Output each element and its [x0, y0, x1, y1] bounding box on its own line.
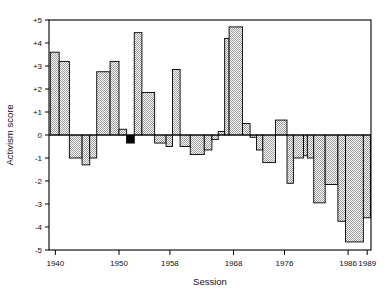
- bar-1976.4: [287, 135, 293, 183]
- bar-1959.6: [180, 135, 190, 147]
- bar-1953.6: [142, 92, 155, 135]
- chart-figure: +5+4+3+2+10-1-2-3-4-5 194019501958196819…: [0, 0, 386, 292]
- bar-1964.6: [212, 135, 218, 140]
- bar-1958.4: [172, 69, 180, 135]
- bar-1940.6: [59, 61, 69, 135]
- x-tick-label: 1958: [161, 259, 179, 268]
- bar-1952.4: [134, 33, 142, 135]
- bar-1980.6: [314, 135, 325, 203]
- x-tick-label: 1989: [358, 259, 376, 268]
- y-tick-label: -3: [35, 200, 43, 209]
- y-tick-label: +1: [33, 108, 43, 117]
- y-tick-label: -4: [35, 223, 43, 232]
- bar-1951.2: [127, 135, 135, 143]
- x-axis-title: Session: [193, 276, 227, 287]
- y-axis-title: Activism score: [4, 104, 15, 165]
- x-tick-label: 1940: [46, 259, 64, 268]
- x-tick-label: 1986: [339, 259, 357, 268]
- bar-1946.5: [97, 72, 110, 135]
- bar-1969.4: [242, 124, 250, 136]
- bar-1966.6: [225, 38, 229, 135]
- bar-1967.3: [229, 27, 242, 135]
- bar-1979.6: [307, 135, 313, 158]
- y-tick-label: -1: [35, 154, 43, 163]
- y-tick-label: -2: [35, 177, 43, 186]
- bar-1957.4: [166, 135, 172, 147]
- bar-1971.6: [256, 135, 262, 150]
- bar-1963.4: [204, 135, 212, 150]
- bar-1955.6: [155, 135, 166, 143]
- y-tick-label: +3: [33, 62, 43, 71]
- y-tick-label: +5: [33, 16, 43, 25]
- bar-1974.6: [276, 120, 287, 135]
- bar-1945.4: [90, 135, 97, 158]
- bar-1950: [119, 129, 127, 135]
- y-tick-label: 0: [38, 131, 43, 140]
- bar-1979: [304, 135, 308, 156]
- bar-1942.2: [69, 135, 82, 158]
- bar-1948.6: [110, 61, 119, 135]
- x-tick-label: 1968: [225, 259, 243, 268]
- x-tick-label: 1950: [110, 259, 128, 268]
- bar-1972.6: [263, 135, 276, 163]
- bar-1939.2: [50, 52, 59, 135]
- activism-score-step-chart: +5+4+3+2+10-1-2-3-4-5 194019501958196819…: [0, 0, 386, 292]
- bar-1961.2: [190, 135, 204, 155]
- y-tick-label: +2: [33, 85, 43, 94]
- x-tick-label: 1976: [276, 259, 294, 268]
- y-tick-label: -5: [35, 246, 43, 255]
- bar-1985.6: [346, 135, 364, 242]
- bar-1982.4: [325, 135, 338, 184]
- y-tick-label: +4: [33, 39, 43, 48]
- bar-1984.4: [338, 135, 346, 221]
- bar-1944.2: [82, 135, 90, 165]
- bar-1977.4: [293, 135, 303, 158]
- bar-1988.4: [363, 135, 370, 218]
